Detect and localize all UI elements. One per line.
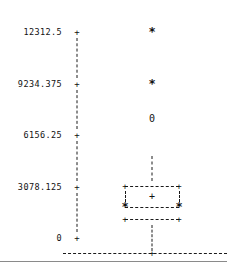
y-axis-tick-label: 0 [0,233,62,243]
box-corner-upper-right: + [176,182,181,191]
box-corner-upper-left: + [122,182,127,191]
box-hinge-left: * [121,202,128,212]
box-left-side [125,191,126,202]
y-axis-tick-mark: + [74,234,79,243]
y-axis-line-segment [77,193,78,233]
box-upper-edge [125,186,179,187]
box-lower-edge [125,207,179,208]
upper-whisker [152,156,153,181]
y-axis-tick-mark: + [74,28,79,37]
lower-fence-corner-left: + [122,214,127,223]
y-axis-tick-mark: + [74,182,79,191]
y-axis-tick-label: 3078.125 [0,182,62,192]
y-axis-tick-label: 9234.375 [0,79,62,89]
panel-bottom-rule [0,261,227,262]
y-axis-line-segment [77,90,78,130]
y-axis-tick-label: 6156.25 [0,130,62,140]
y-axis-tick-mark: + [74,79,79,88]
x-axis-line [63,253,227,254]
y-axis-line-segment [77,141,78,181]
lower-whisker [152,225,153,251]
lower-fence-line [125,219,179,220]
outlier-marker-1: * [148,27,155,37]
character-box-plot: 12312.5+9234.375+6156.25+3078.125+0++++*… [0,0,227,267]
outlier-marker-2: * [148,79,155,89]
y-axis-tick-mark: + [74,131,79,140]
y-axis-line-segment [77,38,78,78]
box-hinge-right: * [175,202,182,212]
y-axis-tick-label: 12312.5 [0,27,62,37]
median-marker: + [149,192,155,202]
lower-fence-corner-right: + [176,214,181,223]
box-right-side [179,191,180,202]
outlier-marker-3: 0 [149,114,155,124]
